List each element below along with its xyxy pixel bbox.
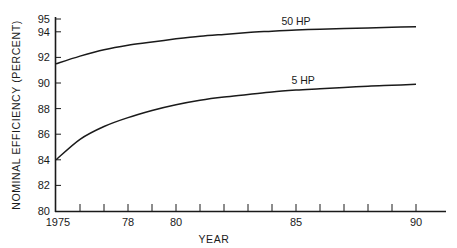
y-tick-label: 88 [38, 103, 50, 115]
x-axis-ticks: 197578808590 [46, 204, 422, 228]
series-line-50-hp [56, 27, 416, 64]
series-labels: 50 HP5 HP [281, 15, 314, 86]
x-tick-label: 90 [410, 216, 422, 228]
x-tick-label: 1975 [46, 216, 70, 228]
x-axis-title: YEAR [199, 233, 230, 245]
x-tick-label: 78 [122, 216, 134, 228]
y-axis-title: NOMINAL EFFICIENCY (PERCENT) [10, 20, 22, 209]
series-label: 5 HP [292, 74, 315, 86]
series-label: 50 HP [281, 15, 310, 27]
y-tick-label: 84 [38, 154, 50, 166]
x-tick-label: 85 [290, 216, 302, 228]
y-tick-label: 82 [38, 179, 50, 191]
series-line-5-hp [56, 84, 416, 160]
x-tick-label: 80 [170, 216, 182, 228]
y-axis: 808284868890929495 [38, 13, 61, 217]
y-tick-label: 95 [38, 13, 50, 25]
y-tick-label: 92 [38, 51, 50, 63]
y-tick-label: 90 [38, 77, 50, 89]
x-axis: 197578808590 [46, 204, 446, 228]
y-axis-ticks: 808284868890929495 [38, 13, 61, 217]
data-series [56, 27, 416, 160]
y-tick-label: 86 [38, 128, 50, 140]
y-tick-label: 94 [38, 26, 50, 38]
efficiency-line-chart: 808284868890929495 197578808590 50 HP5 H… [0, 0, 457, 248]
